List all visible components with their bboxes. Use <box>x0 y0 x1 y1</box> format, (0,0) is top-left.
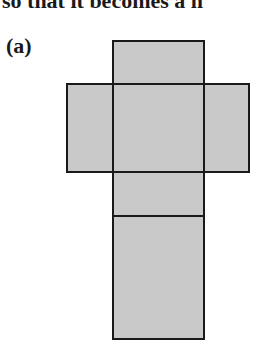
bottom-face <box>112 215 205 340</box>
cutoff-text-line: so that it becomes a n <box>2 0 203 12</box>
right-face <box>203 83 250 173</box>
front-face <box>112 171 205 217</box>
top-face <box>112 40 205 85</box>
left-face <box>66 83 114 173</box>
figure-label: (a) <box>6 34 32 58</box>
center-face <box>112 83 205 173</box>
